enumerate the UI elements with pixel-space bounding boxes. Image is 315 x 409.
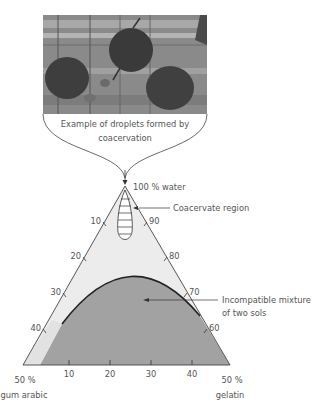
left-tick-30: 30 (50, 287, 61, 297)
droplets-photo (43, 15, 207, 114)
right-tick-70: 70 (189, 287, 200, 297)
bottom-tick-10: 10 (64, 369, 75, 379)
photo-caption-line1: Example of droplets formed by (61, 119, 189, 129)
right-tick-90: 90 (149, 216, 160, 226)
right-tick-80: 80 (169, 251, 180, 261)
right-tick-60: 60 (209, 323, 220, 333)
incompatible-label-line2: of two sols (222, 308, 266, 318)
gum-arabic-label: gum arabic (1, 390, 48, 400)
coacervation-diagram: Example of droplets formed by coacervati… (0, 0, 315, 409)
bottom-tick-30: 30 (146, 369, 157, 379)
arrow-icon (123, 180, 128, 185)
left-tick-40: 40 (30, 323, 41, 333)
bottom-tick-20: 20 (105, 369, 116, 379)
photo-caption-line2: coacervation (98, 133, 152, 143)
gum-arabic-pct: 50 % (14, 375, 35, 385)
bottom-tick-40: 40 (187, 369, 198, 379)
gelatin-label: gelatin (216, 390, 245, 400)
gelatin-pct: 50 % (221, 375, 242, 385)
left-tick-20: 20 (70, 251, 81, 261)
incompatible-label-line1: Incompatible mixture (222, 295, 311, 305)
left-tick-10: 10 (90, 216, 101, 226)
apex-label: 100 % water (133, 182, 186, 192)
coacervate-label: Coacervate region (173, 203, 249, 213)
